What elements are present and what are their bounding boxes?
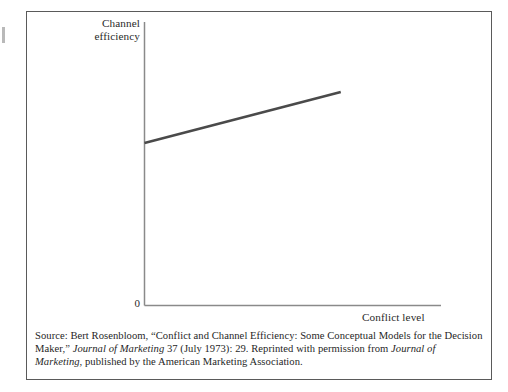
caption-text-part-2: 37 (July 1973): 29. Reprinted with permi… bbox=[164, 343, 391, 354]
y-axis-label-line-2: efficiency bbox=[84, 30, 140, 43]
origin-tick-label: 0 bbox=[130, 297, 140, 309]
x-axis-label: Conflict level bbox=[362, 311, 425, 323]
figure-frame bbox=[26, 11, 492, 380]
caption-text-part-3: , published by the American Marketing As… bbox=[80, 356, 303, 367]
y-axis-label-line-1: Channel bbox=[84, 17, 140, 30]
y-axis-label: Channel efficiency bbox=[84, 17, 140, 42]
source-caption: Source: Bert Rosenbloom, “Conflict and C… bbox=[35, 329, 485, 369]
page-edge-mark bbox=[2, 27, 5, 43]
caption-journal-name-1: Journal of Marketing bbox=[73, 343, 165, 354]
